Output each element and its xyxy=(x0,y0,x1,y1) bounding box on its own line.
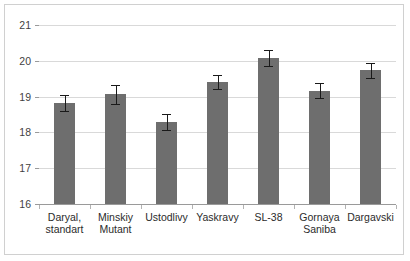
x-axis-tick-mark xyxy=(39,205,40,209)
y-axis-tick-label: 16 xyxy=(5,199,31,209)
y-gridline xyxy=(39,25,396,26)
error-bar-line xyxy=(167,114,168,130)
bar[interactable] xyxy=(360,70,381,204)
y-axis-tick-label: 21 xyxy=(5,20,31,30)
y-gridline xyxy=(39,61,396,62)
y-axis-tick-label: 17 xyxy=(5,163,31,173)
x-axis-tick-mark xyxy=(192,205,193,209)
error-bar-line xyxy=(116,85,117,104)
error-bar-line xyxy=(320,83,321,98)
chart-plot-area: 161718192021Daryal, standartMinskiy Muta… xyxy=(5,5,405,256)
y-axis-tick-mark xyxy=(35,25,39,26)
error-bar-line xyxy=(371,63,372,78)
error-bar-cap-lower xyxy=(264,66,273,67)
bar[interactable] xyxy=(258,58,279,204)
y-axis-tick-mark xyxy=(35,97,39,98)
error-bar-cap-upper xyxy=(213,75,222,76)
y-axis-tick-label: 20 xyxy=(5,56,31,66)
bar[interactable] xyxy=(309,91,330,204)
bar[interactable] xyxy=(105,94,126,204)
x-axis-tick-mark xyxy=(396,205,397,209)
error-bar-cap-lower xyxy=(162,130,171,131)
bar[interactable] xyxy=(156,122,177,204)
y-axis-tick-label: 19 xyxy=(5,92,31,102)
x-axis-tick-mark xyxy=(141,205,142,209)
error-bar-line xyxy=(269,50,270,66)
error-bar-line xyxy=(218,75,219,89)
bar[interactable] xyxy=(54,103,75,204)
y-axis-tick-mark xyxy=(35,61,39,62)
y-axis-tick-mark xyxy=(35,132,39,133)
x-axis-line xyxy=(39,204,396,205)
error-bar-cap-upper xyxy=(366,63,375,64)
error-bar-line xyxy=(65,95,66,111)
chart-frame: 161718192021Daryal, standartMinskiy Muta… xyxy=(4,4,404,255)
x-axis-tick-mark xyxy=(294,205,295,209)
error-bar-cap-upper xyxy=(60,95,69,96)
y-axis-tick-label: 18 xyxy=(5,127,31,137)
error-bar-cap-lower xyxy=(366,78,375,79)
error-bar-cap-lower xyxy=(111,104,120,105)
error-bar-cap-upper xyxy=(264,50,273,51)
error-bar-cap-lower xyxy=(213,89,222,90)
y-axis-tick-mark xyxy=(35,168,39,169)
x-axis-tick-mark xyxy=(243,205,244,209)
error-bar-cap-lower xyxy=(315,98,324,99)
x-axis-tick-mark xyxy=(345,205,346,209)
error-bar-cap-upper xyxy=(111,85,120,86)
x-axis-category-label: Dargavski xyxy=(341,212,400,224)
x-axis-tick-mark xyxy=(90,205,91,209)
error-bar-cap-lower xyxy=(60,111,69,112)
error-bar-cap-upper xyxy=(315,83,324,84)
bar[interactable] xyxy=(207,82,228,204)
error-bar-cap-upper xyxy=(162,114,171,115)
